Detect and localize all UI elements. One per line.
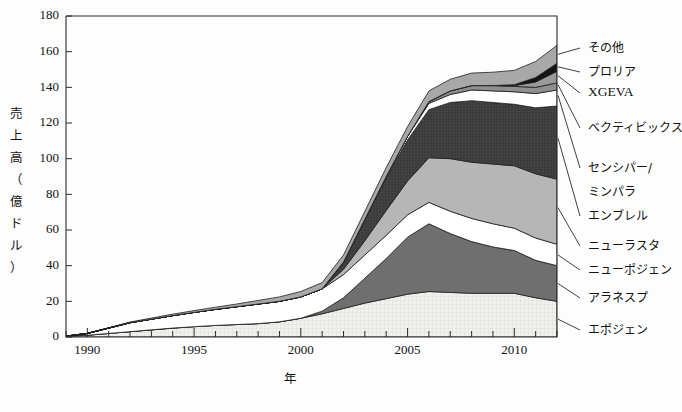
legend-label: その他: [588, 41, 624, 55]
legend-label: センシパー/: [588, 161, 653, 175]
y-axis-title-char: 上: [10, 128, 23, 143]
y-tick-label: 0: [53, 328, 60, 343]
legend-leader-line: [558, 284, 580, 299]
y-axis-title-char: ）: [10, 260, 23, 275]
legend-leader-line: [558, 67, 580, 72]
y-axis-title-char: ド: [10, 216, 23, 231]
legend-label: ベクティビックス: [588, 121, 682, 135]
y-axis-title: 売上高（億ドル）: [10, 106, 23, 275]
y-tick-label: 80: [46, 186, 59, 201]
x-tick-label: 1990: [74, 342, 100, 357]
legend-label: ミンパラ: [588, 185, 636, 199]
y-tick-label: 140: [40, 79, 60, 94]
y-axis-title-char: （: [10, 172, 23, 187]
legend-leader-line: [558, 255, 580, 270]
y-tick-label: 180: [40, 7, 60, 22]
y-axis-title-char: ル: [10, 238, 23, 253]
legend-label: プロリア: [588, 65, 636, 79]
stacked-area-chart: 020406080100120140160180 199019952000200…: [0, 0, 682, 412]
legend-label: エンブレル: [588, 208, 648, 223]
x-tick-label: 1995: [181, 342, 207, 357]
y-tick-label: 60: [46, 221, 59, 236]
legend-callouts: その他プロリアXGEVAベクティビックスセンシパー/ミンパラエンブレルニューラス…: [558, 41, 682, 337]
legend-leader-line: [558, 319, 580, 330]
legend-leader-line: [558, 48, 580, 54]
y-tick-label: 20: [46, 293, 59, 308]
legend-label: XGEVA: [588, 84, 634, 99]
legend-leader-line: [558, 208, 580, 246]
y-tick-label: 120: [40, 114, 60, 129]
x-tick-label: 2000: [288, 342, 314, 357]
legend-label: エポジェン: [588, 323, 648, 337]
area-bands: [66, 45, 557, 337]
y-tick-label: 160: [40, 43, 60, 58]
x-tick-label: 2010: [501, 342, 527, 357]
y-axis-title-char: 売: [10, 106, 23, 121]
x-axis-title: 年: [284, 371, 297, 386]
legend-label: アラネスプ: [588, 291, 648, 305]
y-tick-label: 100: [40, 150, 60, 165]
y-axis-title-char: 億: [10, 194, 23, 209]
y-tick-label: 40: [46, 257, 59, 272]
chart-figure: 020406080100120140160180 199019952000200…: [0, 0, 682, 412]
y-axis-ticks: 020406080100120140160180: [40, 7, 73, 343]
legend-label: ニューラスタ: [588, 239, 660, 253]
x-tick-label: 2005: [395, 342, 421, 357]
legend-label: ニューポジェン: [588, 263, 672, 277]
y-axis-title-char: 高: [10, 150, 23, 165]
legend-leader-line: [558, 138, 580, 216]
